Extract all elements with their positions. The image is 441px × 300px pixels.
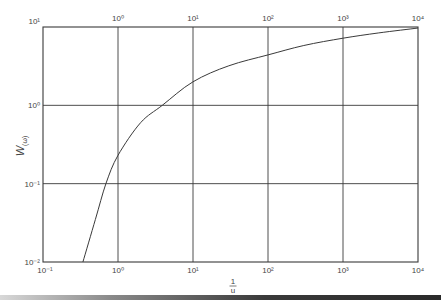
x-top-tick-label: 10⁴	[412, 14, 425, 23]
data-curve	[83, 28, 418, 262]
y-tick-label: 10⁻¹	[24, 180, 40, 189]
svg-text:W(ω): W(ω)	[14, 136, 29, 157]
x-tick-label: 10²	[262, 266, 274, 275]
chart: 10⁻¹10⁰10¹10²10³10⁴ 10⁰10¹10²10³10⁴ 10¹1…	[0, 0, 441, 300]
y-tick-label: 10¹	[28, 17, 40, 26]
x-top-tick-label: 10³	[337, 14, 349, 23]
y-label-sub: (ω)	[21, 136, 29, 146]
x-tick-label: 10³	[337, 266, 349, 275]
x-top-tick-label: 10²	[262, 14, 274, 23]
x-top-tick-label: 10⁰	[112, 14, 124, 23]
x-axis-label: 1 u	[230, 277, 237, 295]
x-tick-label: 10¹	[187, 266, 199, 275]
x-axis-bottom-ticks: 10⁻¹10⁰10¹10²10³10⁴	[37, 266, 425, 275]
x-tick-label: 10⁻¹	[37, 266, 53, 275]
y-tick-label: 10⁰	[28, 101, 40, 110]
x-axis-top-ticks: 10⁰10¹10²10³10⁴	[112, 14, 425, 23]
x-label-numerator: 1	[231, 277, 236, 286]
plot-frame	[43, 27, 418, 262]
x-top-tick-label: 10¹	[187, 14, 199, 23]
bottom-edge-bar	[0, 295, 441, 300]
y-tick-label: 10⁻²	[24, 258, 40, 267]
x-tick-label: 10⁰	[112, 266, 124, 275]
gridlines	[43, 27, 418, 262]
y-axis-label: W(ω)	[14, 136, 29, 157]
x-label-denominator: u	[231, 286, 235, 295]
x-tick-label: 10⁴	[412, 266, 425, 275]
